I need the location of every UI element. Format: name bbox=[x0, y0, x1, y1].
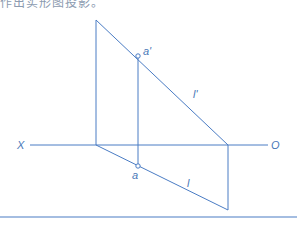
point-a-prime bbox=[136, 54, 140, 58]
label-o: O bbox=[271, 139, 280, 151]
label-x: X bbox=[16, 139, 25, 151]
diagram-canvas: 作出实形图投影。 X O a' a l' l bbox=[0, 0, 297, 225]
top-projection-line-l bbox=[96, 145, 228, 210]
point-a bbox=[136, 164, 140, 168]
front-projection-line-l-prime bbox=[96, 20, 228, 145]
label-l-prime: l' bbox=[193, 88, 198, 100]
label-a: a bbox=[132, 169, 138, 181]
projection-diagram: X O a' a l' l bbox=[0, 0, 297, 225]
label-a-prime: a' bbox=[143, 45, 152, 57]
label-l: l bbox=[187, 177, 190, 189]
